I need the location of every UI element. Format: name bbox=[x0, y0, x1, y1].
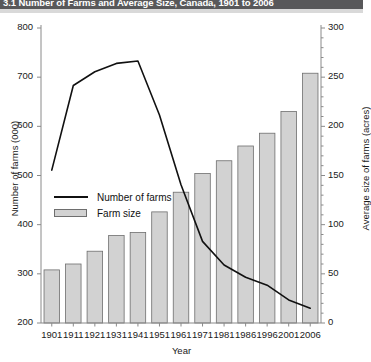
y-axis-left-tick-label: 800 bbox=[0, 21, 33, 32]
x-axis-tick-label: 2006 bbox=[294, 329, 326, 340]
bar bbox=[87, 251, 103, 323]
y-axis-right-tick-label: 300 bbox=[328, 21, 362, 32]
bar bbox=[216, 161, 232, 323]
chart-svg bbox=[0, 13, 363, 362]
legend-label: Farm size bbox=[97, 208, 141, 219]
y-axis-right-tick-label: 0 bbox=[328, 316, 362, 327]
legend-label: Number of farms bbox=[97, 192, 171, 203]
bar bbox=[130, 233, 146, 323]
y-axis-left-tick-label: 300 bbox=[0, 267, 33, 278]
bar bbox=[152, 212, 168, 323]
y-axis-right-tick-label: 50 bbox=[328, 267, 362, 278]
y-axis-right-tick-label: 200 bbox=[328, 119, 362, 130]
x-axis-label: Year bbox=[0, 345, 363, 356]
page-title: 3.1 Number of Farms and Average Size, Ca… bbox=[3, 0, 274, 8]
y-axis-left-tick-label: 700 bbox=[0, 70, 33, 81]
y-axis-left-tick-label: 500 bbox=[0, 169, 33, 180]
bar-swatch-icon bbox=[54, 208, 88, 218]
line-swatch-icon bbox=[54, 192, 88, 202]
y-axis-right-tick-label: 250 bbox=[328, 70, 362, 81]
bar bbox=[281, 112, 297, 323]
bar bbox=[66, 264, 82, 323]
bar bbox=[302, 73, 318, 323]
y-axis-right-tick-label: 150 bbox=[328, 169, 362, 180]
chart-plot-area: Number of farms (000) Average size of fa… bbox=[0, 13, 363, 362]
y-axis-left-tick-label: 400 bbox=[0, 218, 33, 229]
chart-canvas bbox=[0, 13, 363, 362]
bar bbox=[109, 235, 125, 323]
legend-item-farm-size: Farm size bbox=[54, 206, 171, 220]
y-axis-left-tick-label: 600 bbox=[0, 119, 33, 130]
chart-title-bar: 3.1 Number of Farms and Average Size, Ca… bbox=[0, 0, 363, 9]
chart-legend: Number of farms Farm size bbox=[54, 190, 171, 222]
legend-item-number-of-farms: Number of farms bbox=[54, 190, 171, 204]
y-axis-left-tick-label: 200 bbox=[0, 316, 33, 327]
bar bbox=[238, 146, 254, 323]
bar bbox=[44, 270, 60, 323]
y-axis-right-tick-label: 100 bbox=[328, 218, 362, 229]
bar bbox=[173, 192, 189, 323]
bar bbox=[259, 133, 275, 323]
